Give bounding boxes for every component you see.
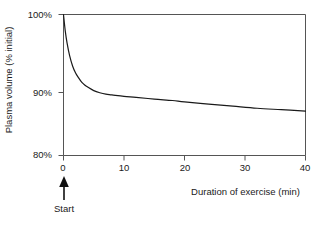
plasma-volume-curve bbox=[64, 15, 306, 112]
y-axis-ticks bbox=[59, 15, 64, 156]
start-arrow-icon bbox=[59, 176, 69, 200]
plot-area bbox=[0, 0, 325, 226]
chart-figure: Plasma volume (% initial) 100% 90% 80% 0… bbox=[0, 0, 325, 226]
x-axis-ticks bbox=[64, 156, 306, 161]
axis-frame bbox=[64, 15, 306, 156]
